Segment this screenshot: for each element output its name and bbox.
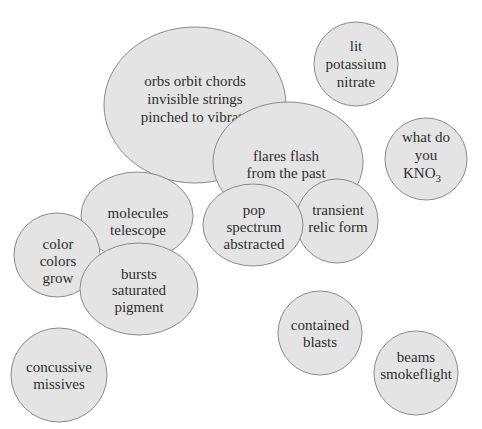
bubble-lit-potassium-line-2: potassium [326, 56, 387, 72]
bubble-flares-line-2: from the past [246, 165, 326, 181]
bubble-transient: transient relic form [296, 179, 378, 263]
bubble-concussive-shape [11, 328, 107, 422]
bubble-pop-line-3: abstracted [224, 236, 285, 252]
bubble-molecules-line-1: molecules [108, 205, 169, 221]
bubble-lit-potassium-line-3: nitrate [337, 74, 376, 90]
bubble-beams: beams smokeflight [374, 331, 458, 415]
bubble-lit-potassium-line-1: lit [350, 38, 363, 54]
bubble-orbs-line-1: orbs orbit chords [144, 73, 246, 89]
bubble-pop: pop spectrum abstracted [203, 184, 303, 266]
bubble-bursts-line-2: saturated [112, 282, 167, 298]
bubble-color-line-3: grow [43, 270, 74, 286]
bubble-beams-line-1: beams [397, 349, 435, 365]
bubble-kno3-line-2: you [415, 147, 438, 163]
bubble-concussive: concussive missives [11, 328, 107, 422]
bubble-bursts: bursts saturated pigment [80, 243, 198, 335]
bubble-contained-shape [278, 291, 362, 375]
bubble-concussive-line-1: concussive [26, 359, 92, 375]
bubble-bursts-line-3: pigment [114, 299, 164, 315]
bubble-molecules-line-2: telescope [110, 222, 166, 238]
bubble-concussive-line-2: missives [33, 376, 85, 392]
bubble-bursts-line-1: bursts [121, 266, 157, 282]
bubble-contained-line-1: contained [291, 317, 350, 333]
bubble-lit-potassium: lit potassium nitrate [314, 22, 398, 106]
bubble-transient-line-2: relic form [308, 219, 368, 235]
bubble-kno3-line-1: what do [402, 129, 450, 145]
bubble-orbs-line-2: invisible strings [147, 91, 243, 107]
bubble-diagram: orbs orbit chords invisible strings pinc… [0, 0, 482, 429]
bubble-beams-line-2: smokeflight [380, 366, 452, 382]
bubble-pop-line-2: spectrum [227, 219, 282, 235]
bubble-kno3: what do you KNO3 [385, 118, 467, 200]
formula-base: KNO [403, 165, 436, 181]
formula-subscript: 3 [436, 172, 442, 184]
bubble-color-line-2: colors [40, 253, 77, 269]
bubble-contained: contained blasts [278, 291, 362, 375]
bubble-contained-line-2: blasts [303, 334, 337, 350]
bubble-transient-line-1: transient [312, 202, 364, 218]
bubble-color-line-1: color [43, 236, 74, 252]
bubble-pop-line-1: pop [243, 202, 266, 218]
bubble-flares-line-1: flares flash [253, 148, 320, 164]
